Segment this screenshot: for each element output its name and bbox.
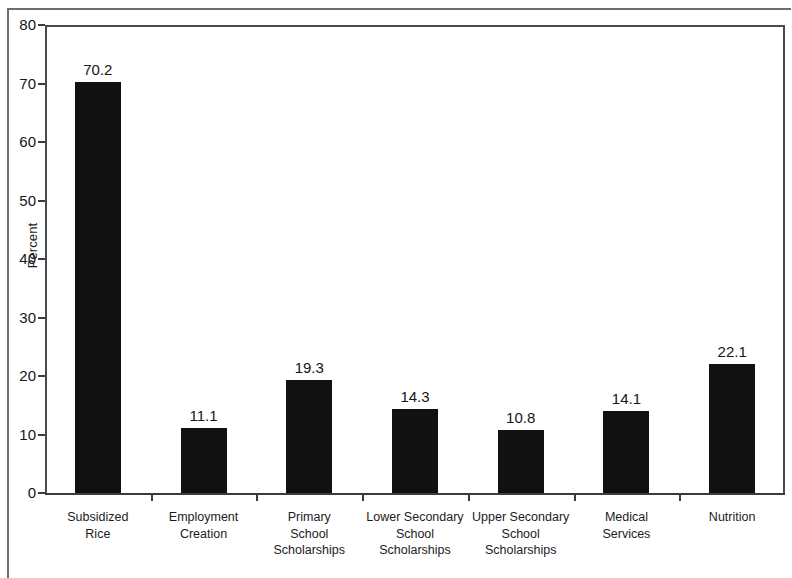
y-axis-tick: 60 <box>0 134 45 150</box>
bar-value-label: 10.8 <box>506 410 535 425</box>
x-axis-category-label: Upper Secondary School Scholarships <box>460 509 582 559</box>
bar <box>603 411 649 493</box>
bar-group: 14.1 <box>603 25 649 493</box>
y-axis-tick-label: 50 <box>19 193 36 209</box>
y-axis-tick-label: 70 <box>19 76 36 92</box>
bar-value-label: 14.1 <box>612 391 641 406</box>
bar-group: 14.3 <box>392 25 438 493</box>
y-axis-tick-mark <box>38 375 45 377</box>
y-axis-tick-mark <box>38 492 45 494</box>
y-axis-tick-mark <box>38 24 45 26</box>
y-axis-tick-mark <box>38 434 45 436</box>
y-axis-tick: 30 <box>0 310 45 326</box>
y-axis-tick-label: 40 <box>19 251 36 267</box>
bar <box>181 428 227 493</box>
bar <box>709 364 755 493</box>
x-axis-line <box>45 493 785 495</box>
x-axis-tick-mark <box>574 495 576 501</box>
bar <box>286 380 332 493</box>
x-axis-tick-mark <box>362 495 364 501</box>
y-axis-tick-mark <box>38 200 45 202</box>
y-axis-tick-label: 60 <box>19 134 36 150</box>
bar <box>392 409 438 493</box>
bar-group: 19.3 <box>286 25 332 493</box>
x-axis-category-label: Lower Secondary School Scholarships <box>354 509 476 559</box>
y-axis-tick: 10 <box>0 427 45 443</box>
y-axis-title: Percent <box>25 206 40 286</box>
x-axis-category-label: Employment Creation <box>143 509 265 542</box>
y-axis-tick-mark <box>38 258 45 260</box>
x-axis-tick-mark <box>256 495 258 501</box>
y-axis-tick: 40 <box>0 251 45 267</box>
bar-value-label: 70.2 <box>83 62 112 77</box>
bar-group: 70.2 <box>75 25 121 493</box>
x-axis-tick-mark <box>151 495 153 501</box>
bar-value-label: 11.1 <box>190 408 218 423</box>
x-axis-tick-mark <box>468 495 470 501</box>
bars-container: 70.211.119.314.310.814.122.1 <box>45 25 785 493</box>
x-axis-category-label: Nutrition <box>671 509 792 526</box>
y-axis-tick: 20 <box>0 368 45 384</box>
y-axis-tick-label: 20 <box>19 368 36 384</box>
y-axis-tick-label: 80 <box>19 17 36 33</box>
y-axis-tick-label: 0 <box>28 485 36 501</box>
y-axis-tick: 80 <box>0 17 45 33</box>
y-axis-tick-mark <box>38 317 45 319</box>
bar <box>75 82 121 493</box>
bar-value-label: 19.3 <box>295 360 324 375</box>
bar <box>498 430 544 493</box>
bar-group: 10.8 <box>498 25 544 493</box>
bar-value-label: 22.1 <box>718 344 747 359</box>
y-axis-tick: 0 <box>0 485 45 501</box>
x-axis-category-label: Subsidized Rice <box>37 509 159 542</box>
bar-group: 11.1 <box>181 25 227 493</box>
bar-group: 22.1 <box>709 25 755 493</box>
y-axis-tick-mark <box>38 141 45 143</box>
x-axis-tick-mark <box>679 495 681 501</box>
y-axis-tick: 50 <box>0 193 45 209</box>
y-axis-tick-label: 30 <box>19 310 36 326</box>
bar-value-label: 14.3 <box>400 389 429 404</box>
x-axis-category-label: Primary School Scholarships <box>248 509 370 559</box>
y-axis-tick: 70 <box>0 76 45 92</box>
x-axis-category-label: Medical Services <box>566 509 688 542</box>
y-axis-tick-label: 10 <box>19 427 36 443</box>
y-axis-tick-mark <box>38 83 45 85</box>
